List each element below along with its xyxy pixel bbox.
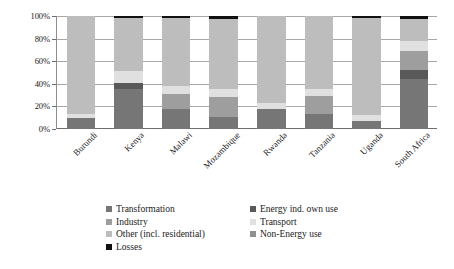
x-axis-label: Tanzania bbox=[307, 130, 337, 160]
legend-swatch-icon bbox=[106, 231, 112, 237]
legend-item[interactable]: Non-Energy use bbox=[250, 228, 338, 241]
legend-label: Losses bbox=[116, 242, 142, 252]
plot-area bbox=[56, 16, 437, 129]
x-axis-labels: BurundiKenyaMalawiMozambiqueRwandaTanzan… bbox=[56, 130, 437, 188]
bar-segment[interactable] bbox=[400, 16, 429, 19]
bar-mozambique[interactable] bbox=[209, 16, 238, 129]
bar-segment[interactable] bbox=[114, 89, 143, 129]
bar-segment[interactable] bbox=[162, 94, 191, 109]
bar-segment[interactable] bbox=[67, 16, 96, 114]
bar-segment[interactable] bbox=[162, 18, 191, 86]
bar-segment[interactable] bbox=[67, 118, 96, 129]
bar-segment[interactable] bbox=[257, 16, 286, 103]
bar-segment[interactable] bbox=[209, 97, 238, 116]
bar-malawi[interactable] bbox=[162, 16, 191, 129]
bar-segment[interactable] bbox=[209, 16, 238, 19]
legend-swatch-icon bbox=[250, 206, 256, 212]
x-axis-label: Mozambique bbox=[201, 130, 242, 171]
bar-south-africa[interactable] bbox=[400, 16, 429, 129]
legend-label: Non-Energy use bbox=[260, 229, 322, 239]
stacked-bar-chart: 0%20%40%60%80%100% BurundiKenyaMalawiMoz… bbox=[0, 0, 454, 269]
legend-item[interactable]: Energy ind. own use bbox=[250, 203, 338, 216]
legend-label: Transport bbox=[260, 217, 297, 227]
bar-segment[interactable] bbox=[305, 16, 334, 89]
bar-burundi[interactable] bbox=[67, 16, 96, 129]
bar-tanzania[interactable] bbox=[305, 16, 334, 129]
bar-segment[interactable] bbox=[400, 51, 429, 70]
bar-segment[interactable] bbox=[257, 109, 286, 129]
bar-segment[interactable] bbox=[114, 83, 143, 90]
x-axis-label: Burundi bbox=[71, 130, 99, 158]
y-axis-tick-label: 100% bbox=[8, 11, 50, 21]
legend-item[interactable]: Industry bbox=[106, 216, 205, 229]
bar-segment[interactable] bbox=[352, 16, 381, 18]
bar-kenya[interactable] bbox=[114, 16, 143, 129]
bar-segment[interactable] bbox=[114, 71, 143, 82]
bar-segment[interactable] bbox=[352, 18, 381, 115]
y-axis-tick-label: 60% bbox=[8, 56, 50, 66]
legend-column-right: Energy ind. own useTransportNon-Energy u… bbox=[250, 203, 338, 241]
legend-item[interactable]: Transformation bbox=[106, 203, 205, 216]
legend-label: Industry bbox=[116, 217, 148, 227]
bar-group bbox=[57, 16, 437, 129]
legend-swatch-icon bbox=[250, 219, 256, 225]
y-axis-tick-label: 0% bbox=[8, 124, 50, 134]
legend-swatch-icon bbox=[106, 219, 112, 225]
bar-segment[interactable] bbox=[305, 114, 334, 129]
legend-swatch-icon bbox=[106, 206, 112, 212]
bar-segment[interactable] bbox=[305, 96, 334, 114]
legend-label: Other (incl. residential) bbox=[116, 229, 205, 239]
bar-segment[interactable] bbox=[162, 16, 191, 18]
y-axis-tick-label: 40% bbox=[8, 79, 50, 89]
legend-swatch-icon bbox=[250, 231, 256, 237]
x-axis-label: South Africa bbox=[393, 130, 432, 169]
bar-segment[interactable] bbox=[400, 70, 429, 79]
x-axis-label: Uganda bbox=[358, 130, 385, 157]
bar-segment[interactable] bbox=[257, 103, 286, 109]
bar-segment[interactable] bbox=[400, 19, 429, 40]
bar-uganda[interactable] bbox=[352, 16, 381, 129]
legend-label: Transformation bbox=[116, 204, 175, 214]
y-axis-tick-label: 80% bbox=[8, 34, 50, 44]
bar-segment[interactable] bbox=[400, 41, 429, 51]
bar-segment[interactable] bbox=[162, 109, 191, 129]
y-axis-tick-label: 20% bbox=[8, 101, 50, 111]
legend-swatch-icon bbox=[106, 244, 112, 250]
x-axis-label: Kenya bbox=[123, 130, 147, 154]
bar-segment[interactable] bbox=[352, 121, 381, 129]
bar-segment[interactable] bbox=[209, 19, 238, 89]
legend-item[interactable]: Transport bbox=[250, 216, 338, 229]
legend-label: Energy ind. own use bbox=[260, 204, 338, 214]
legend-item[interactable]: Other (incl. residential) bbox=[106, 228, 205, 241]
bar-segment[interactable] bbox=[400, 79, 429, 129]
bar-segment[interactable] bbox=[305, 89, 334, 96]
legend-column-left: TransformationIndustryOther (incl. resid… bbox=[106, 203, 205, 253]
bar-segment[interactable] bbox=[162, 86, 191, 94]
bar-segment[interactable] bbox=[114, 18, 143, 71]
bar-segment[interactable] bbox=[209, 89, 238, 97]
bar-segment[interactable] bbox=[67, 114, 96, 117]
bar-rwanda[interactable] bbox=[257, 16, 286, 129]
x-axis-label: Rwanda bbox=[261, 130, 289, 158]
bar-segment[interactable] bbox=[114, 16, 143, 18]
bar-segment[interactable] bbox=[352, 115, 381, 121]
x-axis-label: Malawi bbox=[168, 130, 195, 157]
bar-segment[interactable] bbox=[209, 117, 238, 129]
legend-item[interactable]: Losses bbox=[106, 241, 205, 254]
